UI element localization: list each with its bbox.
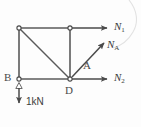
joint-b [17, 77, 21, 81]
label-force-n2: N2 [114, 72, 125, 83]
force-n1-subscript: 1 [121, 26, 125, 34]
force-na-subscript: A [114, 44, 119, 52]
label-force-n1: N1 [114, 21, 125, 32]
label-point-a: A [83, 60, 91, 71]
label-force-na: NA [107, 39, 119, 50]
label-point-b: B [4, 72, 11, 83]
label-load-magnitude: 1kN [26, 97, 44, 107]
joint-top-middle [68, 26, 72, 30]
label-point-d: D [65, 85, 73, 96]
member-diagonal [19, 28, 70, 79]
joint-d [68, 77, 72, 81]
force-n2-subscript: 2 [121, 77, 125, 85]
diagram-screenshot: B D A N1 NA N2 1kN [0, 0, 141, 127]
joint-top-left [17, 26, 21, 30]
support-triangle-icon [16, 83, 22, 89]
